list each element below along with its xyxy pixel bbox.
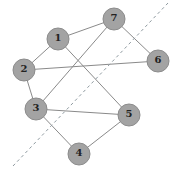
graph-diagram: 1 7 6 2 3 5 4 [0,0,176,176]
edge-2-6 [24,61,158,70]
node-label-1: 1 [46,31,70,45]
node-label-7: 7 [102,11,126,25]
node-label-3: 3 [24,101,48,115]
edge-1-5 [58,39,129,115]
node-label-2: 2 [12,62,36,76]
edge-3-5 [36,109,129,115]
nodes [13,8,169,165]
node-label-4: 4 [67,146,91,160]
node-label-6: 6 [146,53,170,67]
node-label-5: 5 [117,107,141,121]
